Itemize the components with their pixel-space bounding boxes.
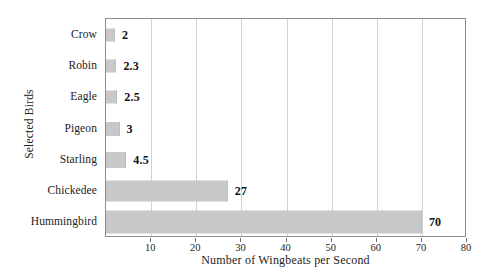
bar-value-eagle: 2.5 [124, 90, 140, 105]
bar-starling [106, 152, 126, 168]
x-tick-label: 10 [145, 242, 156, 253]
category-label-starling: Starling [60, 153, 97, 165]
bar-eagle [106, 91, 117, 104]
x-tick-label: 50 [325, 242, 336, 253]
category-label-eagle: Eagle [70, 90, 97, 102]
bar-value-robin: 2.3 [123, 58, 139, 73]
plot-area: 22.32.534.52770 [105, 18, 466, 237]
bar-robin [106, 59, 116, 72]
bar-chart-figure: Selected Birds CrowRobinEaglePigeonStarl… [0, 0, 491, 273]
x-tick-label: 30 [235, 242, 246, 253]
bar-value-pigeon: 3 [127, 121, 133, 136]
bar-pigeon [106, 122, 120, 136]
category-label-hummingbird: Hummingbird [31, 215, 97, 227]
bar-value-hummingbird: 70 [429, 215, 441, 230]
x-tick-label: 80 [461, 242, 472, 253]
category-label-pigeon: Pigeon [64, 122, 97, 134]
x-tick-label: 60 [371, 242, 382, 253]
x-tick-label: 20 [190, 242, 201, 253]
x-tick-label: 70 [416, 242, 427, 253]
bar-crow [106, 28, 115, 41]
bar-value-starling: 4.5 [133, 152, 149, 167]
x-tick-label: 40 [280, 242, 291, 253]
category-label-robin: Robin [68, 59, 97, 71]
bar-value-crow: 2 [122, 27, 128, 42]
bar-chickedee [106, 181, 228, 202]
bar-hummingbird [106, 211, 422, 234]
x-axis-ticks: 1020304050607080 [105, 238, 466, 254]
category-axis-labels: CrowRobinEaglePigeonStarlingChickedeeHum… [0, 18, 101, 237]
category-label-chickedee: Chickedee [48, 184, 97, 196]
bar-value-chickedee: 27 [235, 184, 247, 199]
bars-layer: 22.32.534.52770 [106, 19, 465, 236]
category-label-crow: Crow [71, 28, 97, 40]
x-axis-title: Number of Wingbeats per Second [105, 253, 466, 268]
